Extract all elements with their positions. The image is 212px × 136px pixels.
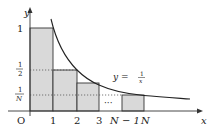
y-tick-half-den: 2	[18, 70, 22, 78]
rect-N1-N	[122, 95, 144, 111]
y-tick-half: 1 2	[16, 61, 23, 78]
curve-label-num: 1	[140, 70, 144, 77]
rect-2-3	[77, 83, 99, 111]
ellipsis: ···	[104, 98, 113, 108]
x-tick-N-minus-1: N − 1	[109, 115, 140, 126]
curve-label-lhs: y =	[112, 72, 129, 82]
figure-svg: y x O 1 1 2 1 N 1 2 3 N − 1 N ··· y = 1 …	[0, 0, 212, 136]
y-tick-invN-num: 1	[18, 86, 22, 94]
y-tick-1: 1	[17, 23, 23, 34]
rectangles	[30, 28, 144, 111]
x-axis-label: x	[201, 115, 207, 126]
rect-0-1	[30, 28, 53, 111]
curve-label-den: x	[139, 77, 143, 84]
x-tick-N: N	[140, 115, 151, 126]
x-tick-2: 2	[74, 115, 80, 126]
x-tick-1: 1	[50, 115, 56, 126]
x-tick-3: 3	[96, 115, 102, 126]
rect-1-2	[53, 70, 77, 111]
y-tick-invN: 1 N	[15, 86, 24, 103]
x-axis-arrow-icon	[197, 109, 203, 114]
y-tick-invN-den: N	[15, 95, 23, 103]
curve-label: y = 1 x	[112, 70, 145, 84]
diagram: y x O 1 1 2 1 N 1 2 3 N − 1 N ··· y = 1 …	[0, 0, 212, 136]
y-tick-half-num: 1	[18, 61, 22, 69]
origin-label: O	[17, 115, 25, 126]
y-axis-label: y	[23, 7, 30, 18]
